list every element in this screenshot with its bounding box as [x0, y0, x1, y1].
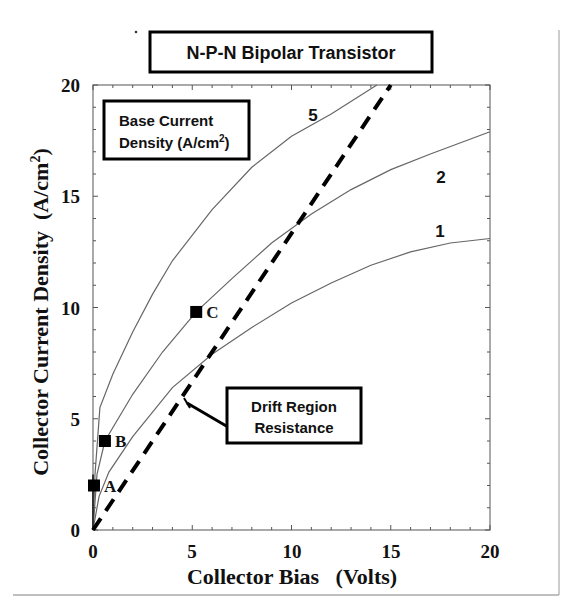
- drift-region-annotation: Drift Region Resistance: [184, 388, 361, 443]
- annotation-line2: Resistance: [254, 419, 333, 436]
- y-tick-label: 0: [71, 520, 81, 541]
- curve-base-2: [93, 132, 490, 530]
- curve-label-1: 1: [435, 222, 444, 241]
- legend-title-line2: Density (A/cm2): [119, 133, 230, 151]
- x-tick-label: 15: [382, 541, 401, 562]
- x-tick-label: 20: [481, 541, 500, 562]
- curve-labels: 5 2 1: [308, 106, 445, 241]
- curve-label-2: 2: [436, 168, 445, 187]
- legend-title-line1: Base Current: [119, 112, 213, 129]
- x-axis-label: Collector Bias (Volts): [187, 564, 397, 589]
- chart-title: N-P-N Bipolar Transistor: [186, 43, 395, 63]
- y-tick-label: 5: [71, 409, 81, 430]
- point-label-b: B: [115, 432, 126, 451]
- x-tick-label: 10: [283, 541, 302, 562]
- point-marker-c: [190, 306, 202, 318]
- point-marker-b: [99, 435, 111, 447]
- y-tick-label: 20: [61, 75, 80, 96]
- x-tick-label: 5: [187, 541, 197, 562]
- point-marker-a: [88, 480, 100, 492]
- y-tick-label: 15: [61, 186, 80, 207]
- data-point-markers: ABC: [88, 303, 219, 496]
- y-tick-label: 10: [61, 298, 80, 319]
- chart: N-P-N Bipolar Transistor 0 5 10 15 20 0 …: [0, 0, 579, 615]
- stray-dot: [135, 31, 138, 34]
- y-axis-tick-labels: 0 5 10 15 20: [61, 75, 80, 541]
- curve-base-1: [93, 239, 490, 531]
- x-tick-label: 0: [88, 541, 98, 562]
- point-label-a: A: [104, 477, 117, 496]
- curve-label-5: 5: [308, 106, 317, 125]
- annotation-pointer: [187, 403, 228, 427]
- point-label-c: C: [206, 303, 218, 322]
- y-axis-label: Collector Current Density (A/cm2): [28, 148, 53, 476]
- chart-title-box: N-P-N Bipolar Transistor: [150, 32, 432, 72]
- x-axis-tick-labels: 0 5 10 15 20: [88, 541, 499, 562]
- legend-box: Base Current Density (A/cm2): [104, 101, 249, 159]
- annotation-line1: Drift Region: [251, 398, 337, 415]
